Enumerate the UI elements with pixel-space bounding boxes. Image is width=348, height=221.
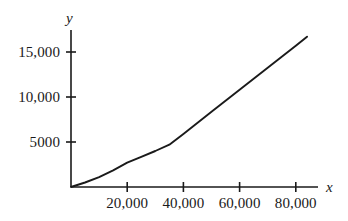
y-tick-label: 15,000	[0, 44, 60, 61]
x-tick-label: 20,000	[106, 195, 148, 212]
y-tick-label: 10,000	[0, 89, 60, 106]
chart-container: 500010,00015,000 20,00040,00060,00080,00…	[0, 0, 348, 221]
x-tick-label: 40,000	[162, 195, 204, 212]
x-axis-label: x	[326, 179, 333, 196]
y-axis-label: y	[66, 10, 73, 27]
y-tick-label: 5000	[0, 134, 60, 151]
x-tick-label: 80,000	[275, 195, 317, 212]
plot-area	[0, 0, 348, 221]
x-tick-label: 60,000	[219, 195, 261, 212]
data-series-line	[71, 37, 307, 187]
